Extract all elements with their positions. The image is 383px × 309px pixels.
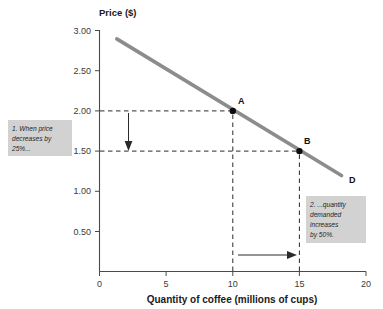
demand-curve-label: D — [349, 175, 356, 185]
data-point-b-label: B — [304, 136, 311, 146]
chart-canvas: Price ($) 3.00 2.50 2.00 1.50 1.00 0.50 … — [0, 0, 383, 309]
annotation-price-decrease: 1. When price decreases by 25%... — [8, 120, 72, 156]
y-tick-label-150: 1.50 — [73, 146, 91, 156]
data-point-a — [230, 108, 236, 114]
y-tick-label-300: 3.00 — [73, 26, 91, 36]
y-axis-title: Price ($) — [99, 7, 137, 18]
annotation-quantity-increase: 2. ...quantity demanded increases by 50%… — [306, 196, 366, 243]
annotation-quantity-increase-line-3: increases — [310, 221, 339, 228]
annotation-quantity-increase-line-1: 2. ...quantity — [309, 201, 347, 209]
x-tick-label-15: 15 — [294, 279, 304, 289]
x-tick-label-10: 10 — [228, 279, 238, 289]
x-tick-label-20: 20 — [361, 279, 371, 289]
annotation-price-decrease-line-3: 25%... — [11, 145, 31, 152]
data-point-b — [296, 148, 302, 154]
x-tick-label-0: 0 — [97, 279, 102, 289]
annotation-price-decrease-line-1: 1. When price — [12, 125, 53, 133]
data-point-a-label: A — [238, 96, 245, 106]
annotation-quantity-increase-line-2: demanded — [310, 211, 341, 218]
y-tick-label-100: 1.00 — [73, 186, 91, 196]
annotation-price-decrease-line-2: decreases by — [12, 135, 52, 143]
y-tick-label-250: 2.50 — [73, 66, 91, 76]
x-tick-label-5: 5 — [164, 279, 169, 289]
demand-curve-chart: Price ($) 3.00 2.50 2.00 1.50 1.00 0.50 … — [0, 0, 383, 309]
y-tick-label-050: 0.50 — [73, 227, 91, 237]
annotation-quantity-increase-line-4: by 50%. — [310, 231, 334, 239]
x-axis-title: Quantity of coffee (millions of cups) — [147, 294, 318, 305]
y-tick-label-200: 2.00 — [73, 106, 91, 116]
